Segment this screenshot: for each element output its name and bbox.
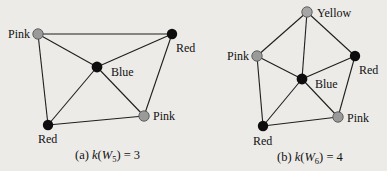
node-label: Red	[176, 41, 195, 55]
edge-rim	[144, 34, 172, 116]
edge-rim	[257, 12, 307, 56]
edge-spoke	[302, 12, 307, 79]
node-label: Red	[253, 134, 272, 148]
edge-rim	[38, 34, 48, 125]
node-label: Pink	[227, 49, 249, 63]
node-blue-hub	[92, 62, 103, 73]
node-label: Pink	[347, 111, 369, 125]
node-red	[258, 121, 268, 131]
figure-b-wheel-w6: Yellow Pink Red Blue Pink Red (b) k(W6) …	[227, 6, 378, 166]
node-label: Pink	[8, 27, 30, 41]
figure-b-edges	[257, 12, 355, 126]
edge-spoke	[302, 56, 355, 79]
node-label: Blue	[111, 65, 134, 79]
figure-a-wheel-w5: Pink Red Blue Pink Red (a) k(W5) = 3	[8, 27, 195, 164]
edge-spoke	[38, 34, 97, 67]
node-yellow	[302, 7, 312, 17]
node-red	[350, 51, 360, 61]
figure-a-edges	[38, 34, 172, 125]
node-pink	[252, 51, 262, 61]
edge-rim	[263, 117, 338, 126]
node-pink	[33, 29, 43, 39]
node-label: Red	[359, 63, 378, 77]
node-pink	[333, 112, 343, 122]
diagram-canvas: Pink Red Blue Pink Red (a) k(W5) = 3	[0, 0, 387, 171]
edge-spoke	[257, 56, 302, 79]
wheel-graph-coloring-figure: Pink Red Blue Pink Red (a) k(W5) = 3	[0, 0, 387, 171]
edge-rim	[48, 116, 144, 125]
figure-a-caption: (a) k(W5) = 3	[75, 148, 140, 164]
edge-spoke	[48, 67, 97, 125]
node-label: Red	[38, 132, 57, 146]
figure-b-caption: (b) k(W6) = 4	[277, 150, 344, 166]
node-label: Blue	[315, 77, 338, 91]
edge-rim	[257, 56, 263, 126]
node-pink	[139, 111, 149, 121]
node-red	[43, 120, 53, 130]
edge-spoke	[263, 79, 302, 126]
node-red	[167, 29, 177, 39]
node-label: Pink	[153, 109, 175, 123]
node-blue-hub	[297, 74, 308, 85]
node-label: Yellow	[317, 6, 351, 20]
edge-spoke	[97, 34, 172, 67]
figure-a-labels: Pink Red Blue Pink Red	[8, 27, 195, 146]
edge-rim	[338, 56, 355, 117]
